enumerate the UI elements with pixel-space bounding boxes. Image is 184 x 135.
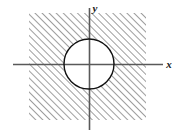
x-axis-label: x xyxy=(165,58,172,70)
y-axis-label: y xyxy=(91,2,98,14)
figure-root: x y xyxy=(0,0,184,135)
coordinate-plane-figure: x y xyxy=(0,0,184,135)
